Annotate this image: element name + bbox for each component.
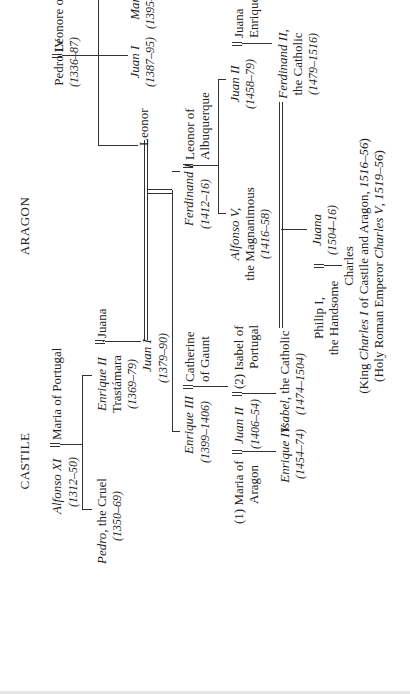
descent-line <box>281 229 307 230</box>
dates-juana-queen: (1504–16) <box>325 205 339 255</box>
descent-line <box>148 193 172 194</box>
person-juan-i-castile: Juan I <box>140 339 154 372</box>
person-juan-ii-aragon: Juan II <box>228 65 242 102</box>
descent-line <box>218 79 226 80</box>
person-juan-ii-castile: Juan II <box>232 407 246 444</box>
dates-isabel: (1474–1504) <box>293 353 307 415</box>
dates-ferdinand-i: (1412–16) <box>198 179 212 229</box>
sibling-line <box>172 190 173 432</box>
dates-enrique-iii: (1399–1406) <box>198 401 212 463</box>
person-leonor: Leonor <box>137 108 151 146</box>
albuquerque-line2: Albuquerque <box>198 92 212 160</box>
dates-juan-ii-aragon: (1458–79) <box>243 59 257 109</box>
descent-line <box>62 55 98 56</box>
sibling-line <box>98 0 99 146</box>
juana-enriquez-line1: Juana <box>232 8 246 38</box>
person-alfonso-v: Alfonso V, <box>228 208 242 261</box>
person-isabel-the-catholic: Isabel, the Catholic <box>278 331 292 432</box>
ferdinand-ii-epithet: the Catholic <box>291 32 305 95</box>
dates-enrique-ii: (1369–79) <box>125 359 139 409</box>
descent-line <box>148 189 172 190</box>
dates-ferdinand-ii: (1479–1516) <box>306 33 320 95</box>
descent-line <box>242 43 272 44</box>
marriage-symbol <box>50 443 60 447</box>
charles-title-emperor: (Holy Roman Emperor Charles V, 1519–56) <box>372 150 386 382</box>
genealogy-diagram: CASTILE ARAGON Alfonso XI (1312–50) Mari… <box>0 0 410 694</box>
marriage-line <box>144 140 148 340</box>
descent-line <box>218 213 226 214</box>
person-martin-i: Martin I <box>128 0 142 20</box>
catherine-line1: Catherine <box>183 331 197 382</box>
marriage-symbol <box>183 385 193 389</box>
marriage-symbol <box>52 54 62 58</box>
person-alfonso-xi: Alfonso XI <box>50 459 64 514</box>
descent-line <box>193 386 228 387</box>
person-ferdinand-i: Ferdinand I <box>182 164 196 226</box>
descent-line <box>103 341 104 342</box>
marriage-symbol <box>314 264 324 268</box>
heading-castile: CASTILE <box>18 433 32 490</box>
catherine-line2: of Gaunt <box>198 336 212 382</box>
person-ferdinand-ii: Ferdinand II, <box>276 29 290 99</box>
dates-juan-i-castile: (1379–90) <box>156 333 170 383</box>
marriage-symbol <box>232 392 242 396</box>
descent-line <box>242 451 276 452</box>
person-leonore-of-sicily: Leonore of Sicily <box>52 0 66 52</box>
descent-line <box>172 431 180 432</box>
person-enrique-ii: Enrique II <box>95 357 109 411</box>
descent-line <box>105 341 141 342</box>
descent-line <box>242 393 276 394</box>
descent-line <box>60 444 82 445</box>
isabel-portugal-line1: (2) Isabel of <box>232 325 246 389</box>
person-juan-i-aragon: Juan I <box>128 46 142 79</box>
heading-aragon: ARAGON <box>18 197 32 256</box>
person-charles: Charles <box>342 246 356 286</box>
descent-line <box>82 509 92 510</box>
person-enrique-iii: Enrique III <box>182 396 196 454</box>
descent-line <box>98 145 138 146</box>
person-juana: Juana <box>95 308 109 338</box>
dates-pedro-iv: (1336–87) <box>67 37 81 87</box>
dates-pedro: (1350–69) <box>110 491 124 541</box>
maria-aragon-line1: (1) Maria of <box>232 460 246 524</box>
descent-line <box>172 171 180 172</box>
marriage-symbol <box>183 164 193 168</box>
dates-martin-i: (1395–1410) <box>143 0 157 29</box>
maria-aragon-line2: Aragon <box>247 465 261 504</box>
philip-line1: Philip I, <box>312 297 326 339</box>
philip-line2: the Handsome <box>327 281 341 356</box>
dates-enrique-iv: (1454–74) <box>293 429 307 479</box>
dates-juan-ii-castile: (1406–54) <box>248 399 262 449</box>
dates-alfonso-xi: (1312–50) <box>66 457 80 507</box>
alfonso-v-epithet: the Magnanimous <box>243 187 257 281</box>
marriage-symbol <box>232 42 242 46</box>
sibling-line <box>218 80 219 214</box>
dates-alfonso-v: (1416–58) <box>258 209 272 259</box>
albuquerque-line1: Leonor of <box>183 108 197 160</box>
dates-juan-i-aragon: (1387–95) <box>143 37 157 87</box>
descent-line <box>98 55 128 56</box>
descent-line <box>193 165 218 166</box>
sibling-line <box>82 376 83 510</box>
marriage-line <box>279 102 283 328</box>
juana-enriquez-line2: Enriquez <box>247 0 261 38</box>
person-maria-of-portugal: Maria of Portugal <box>50 348 64 440</box>
charles-title-king: (King Charles I of Castile and Aragon, 1… <box>357 138 371 394</box>
person-enrique-iv: Enrique IV <box>278 425 292 482</box>
isabel-portugal-line2: Portugal <box>247 325 261 369</box>
marriage-symbol <box>232 450 242 454</box>
descent-line <box>324 265 342 266</box>
enrique-ii-trastamara: Trastámara <box>110 355 124 413</box>
person-juana-queen: Juana <box>310 214 324 246</box>
descent-line <box>82 375 92 376</box>
person-pedro-the-cruel: Pedro, the Cruel <box>95 478 109 564</box>
